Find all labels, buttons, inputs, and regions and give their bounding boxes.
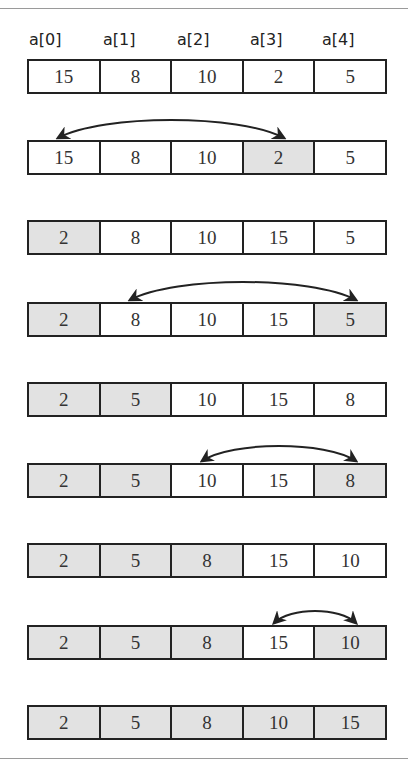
swap-arrow-icon — [58, 120, 284, 138]
swap-arrow-icon — [202, 446, 356, 461]
swap-arrow-icon — [130, 282, 356, 300]
swap-arrows — [0, 0, 408, 768]
swap-arrow-icon — [274, 611, 356, 623]
